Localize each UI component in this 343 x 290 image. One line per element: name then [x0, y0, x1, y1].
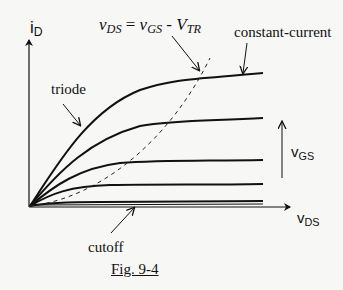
diagram-canvas: iD vDS = vGS - VTR constant-current trio…: [0, 0, 343, 290]
constant-current-label: constant-current: [234, 25, 331, 40]
figure-caption: Fig. 9-4: [111, 262, 159, 277]
equation-arrow: [172, 36, 199, 70]
triode-label: triode: [51, 82, 86, 97]
y-axis-label-sub: D: [34, 25, 43, 39]
x-axis-label: vDS: [297, 210, 320, 227]
boundary-equation-label: vDS = vGS - VTR: [99, 16, 201, 35]
annotation-arrows: [63, 36, 282, 233]
cutoff-label: cutoff: [88, 240, 124, 255]
constant-current-arrow: [243, 43, 247, 73]
curve-vgs-3: [30, 160, 263, 206]
triode-arrow: [63, 104, 80, 125]
cutoff-arrow: [111, 208, 134, 233]
y-axis-label: iD: [30, 19, 43, 38]
cutoff-line: [30, 204, 263, 205]
vgs-label: vGS: [291, 144, 314, 161]
